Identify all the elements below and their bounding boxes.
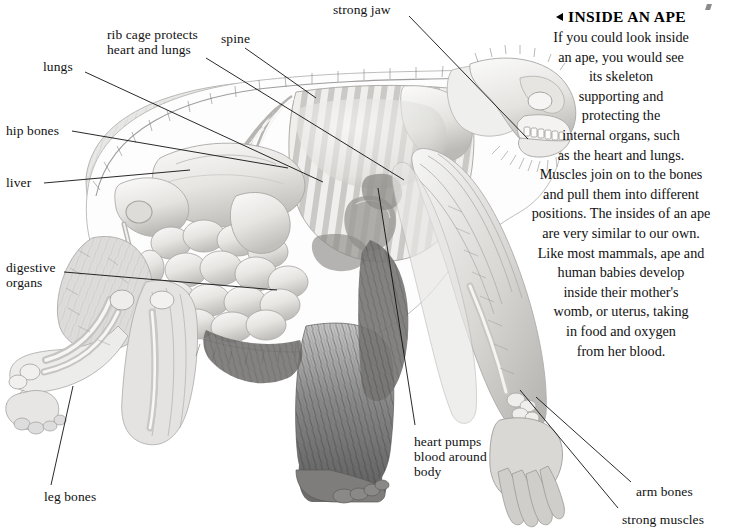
page-title: INSIDE AN APE <box>518 8 724 26</box>
label-lungs: lungs <box>43 59 73 74</box>
body-line: are very similar to our own. <box>518 224 724 244</box>
body-line: Muscles join on to the bones <box>518 165 724 185</box>
body-line: internal organs, such <box>518 126 724 146</box>
body-line: positions. The insides of an ape <box>518 204 724 224</box>
label-digestive-organs: digestive organs <box>6 260 56 290</box>
body-line: inside their mother's <box>518 283 724 303</box>
body-line: Like most mammals, ape and <box>518 244 724 264</box>
body-line: in food and oxygen <box>518 322 724 342</box>
inside-an-ape-page: strong jawrib cage protects heart and lu… <box>0 0 732 530</box>
text-panel: INSIDE AN APE If you could look insidean… <box>518 8 724 361</box>
label-strong-jaw: strong jaw <box>333 2 391 17</box>
label-rib-cage: rib cage protects heart and lungs <box>107 27 198 57</box>
body-line: supporting and <box>518 87 724 107</box>
body-line: human babies develop <box>518 263 724 283</box>
label-strong-muscles: strong muscles <box>622 512 704 527</box>
label-liver: liver <box>6 175 31 190</box>
label-leg-bones: leg bones <box>44 489 96 504</box>
body-line: womb, or uterus, taking <box>518 302 724 322</box>
label-heart-pumps: heart pumps blood around body <box>414 434 487 479</box>
body-line: from her blood. <box>518 342 724 362</box>
label-spine: spine <box>221 31 250 46</box>
left-triangle-icon <box>556 13 563 21</box>
page-title-text: INSIDE AN APE <box>568 8 686 25</box>
body-line: protecting the <box>518 106 724 126</box>
label-arm-bones: arm bones <box>636 484 693 499</box>
body-text: If you could look insidean ape, you woul… <box>518 28 724 361</box>
body-line: an ape, you would see <box>518 48 724 68</box>
body-line: and pull them into different <box>518 185 724 205</box>
body-line: its skeleton <box>518 67 724 87</box>
body-line: If you could look inside <box>518 28 724 48</box>
label-hip-bones: hip bones <box>6 123 59 138</box>
body-line: as the heart and lungs. <box>518 146 724 166</box>
